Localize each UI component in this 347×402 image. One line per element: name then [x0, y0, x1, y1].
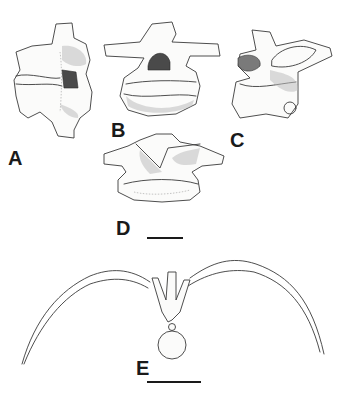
panel-a-drawing — [14, 23, 92, 138]
panel-c-drawing — [232, 30, 332, 118]
panel-label-d: D — [116, 218, 130, 238]
panel-label-c: C — [230, 130, 244, 150]
scale-bar-e — [147, 381, 201, 383]
panel-d-drawing — [104, 134, 224, 202]
panel-label-e: E — [136, 358, 149, 378]
figure-drawing — [0, 0, 347, 402]
figure: A B C D E — [0, 0, 347, 402]
panel-label-a: A — [8, 148, 22, 168]
panel-b-drawing — [104, 22, 220, 116]
panel-e-drawing — [22, 260, 324, 364]
panel-label-b: B — [111, 120, 125, 140]
scale-bar-a-d — [147, 237, 183, 239]
